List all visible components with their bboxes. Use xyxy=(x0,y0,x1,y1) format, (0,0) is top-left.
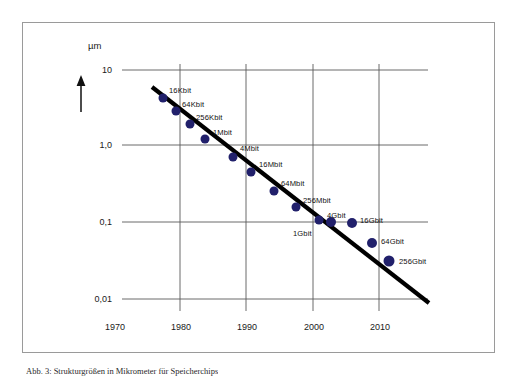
x-tick-label-1980: 1980 xyxy=(171,322,191,332)
data-point-marker xyxy=(186,120,195,129)
data-point-label: 16Mbit xyxy=(259,160,282,169)
y-tick-label-0-01: 0,01 xyxy=(74,294,112,304)
data-point-marker xyxy=(159,94,168,103)
data-point-label: 64Mbit xyxy=(281,179,304,188)
x-tick-label-1970: 1970 xyxy=(105,322,125,332)
data-point-marker xyxy=(172,107,181,116)
data-point-label: 4Mbit xyxy=(240,144,259,153)
data-point-label: 1Gbit xyxy=(293,229,312,238)
data-point-label: 4Gbit xyxy=(327,211,346,220)
data-point-label: 1Mbit xyxy=(213,128,232,137)
x-tick-label-2010: 2010 xyxy=(370,322,390,332)
data-point-label: 16Gbit xyxy=(360,216,383,225)
trendline xyxy=(152,87,429,303)
data-point-label: 64Kbit xyxy=(182,100,204,109)
data-point-marker xyxy=(247,168,256,177)
chart-canvas xyxy=(0,0,516,379)
data-point-label: 256Kbit xyxy=(196,113,222,122)
data-point-label: 256Gbit xyxy=(399,257,426,266)
x-tick-label-2000: 2000 xyxy=(304,322,324,332)
data-point-marker xyxy=(292,203,301,212)
up-arrow-icon xyxy=(77,75,86,112)
data-point-label: 64Gbit xyxy=(381,237,404,246)
y-axis-unit-label: µm xyxy=(88,40,101,51)
y-tick-label-1: 1,0 xyxy=(80,140,112,150)
data-point-marker xyxy=(315,216,324,225)
data-point-marker xyxy=(347,218,357,228)
y-tick-label-0-1: 0,1 xyxy=(80,217,112,227)
y-tick-label-10: 10 xyxy=(86,65,112,75)
x-tick-label-1990: 1990 xyxy=(237,322,257,332)
data-point-marker xyxy=(384,256,395,267)
data-point-marker xyxy=(229,153,238,162)
data-point-label: 256Mbit xyxy=(303,196,331,205)
data-point-label: 16Kbit xyxy=(169,86,191,95)
figure-caption: Abb. 3: Strukturgrößen in Mikrometer für… xyxy=(26,366,218,379)
data-point-marker xyxy=(270,187,279,196)
data-point-marker xyxy=(201,135,210,144)
data-point-marker xyxy=(367,238,377,248)
